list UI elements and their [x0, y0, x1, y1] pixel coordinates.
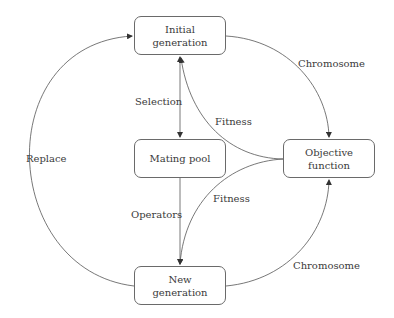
node-objective-function: Objectivefunction — [283, 139, 375, 178]
node-new-generation: Newgeneration — [134, 266, 226, 305]
node-initial-generation: Initialgeneration — [134, 16, 226, 55]
label-replace: Replace — [26, 153, 67, 165]
label-fitness-bottom: Fitness — [213, 193, 250, 205]
label-selection: Selection — [135, 96, 182, 108]
label-chromosome-top: Chromosome — [298, 58, 365, 70]
node-mating-pool: Mating pool — [134, 139, 226, 178]
label-operators: Operators — [131, 209, 182, 221]
label-chromosome-bottom: Chromosome — [293, 260, 360, 272]
label-fitness-top: Fitness — [215, 116, 252, 128]
